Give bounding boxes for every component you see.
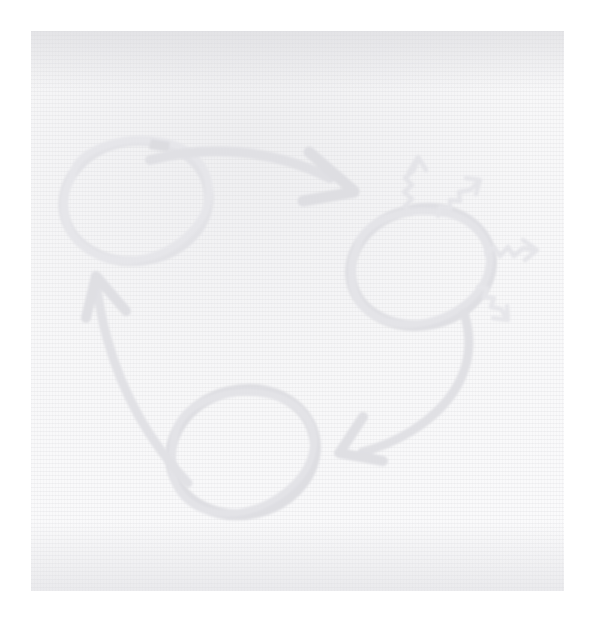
diagram-canvas bbox=[0, 0, 593, 624]
node-right[interactable] bbox=[348, 206, 494, 328]
node-bottom[interactable] bbox=[168, 388, 318, 516]
node-top-left[interactable] bbox=[62, 140, 210, 262]
paper-sheet bbox=[31, 31, 564, 591]
